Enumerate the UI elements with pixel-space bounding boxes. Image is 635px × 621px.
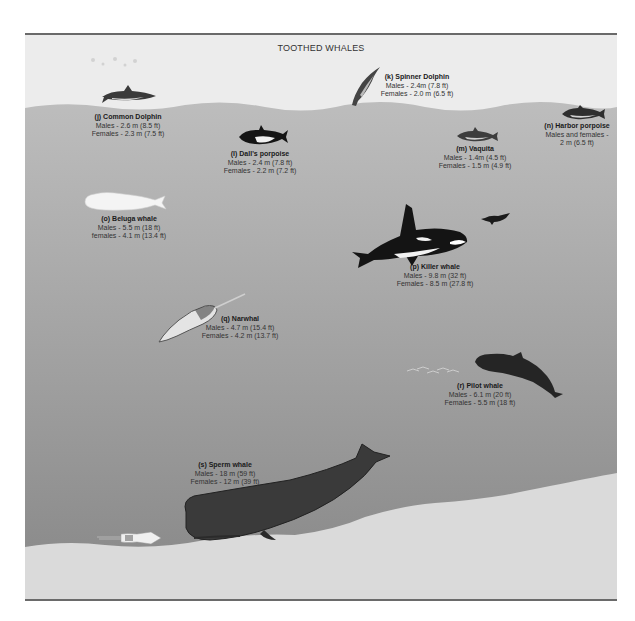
orca-icon: [350, 200, 472, 270]
label-sperm-whale: (s) Sperm whale Males - 18 m (59 ft) Fem…: [175, 461, 275, 487]
label-killer-whale: (p) Killer whale Males - 9.8 m (32 ft) F…: [380, 263, 490, 289]
label-dalls-porpoise: (l) Dall's porpoise Males - 2.4 m (7.8 f…: [215, 150, 305, 176]
squid-icon: [97, 529, 163, 547]
species-female-size: 2 m (6.5 ft): [537, 139, 617, 148]
porpoise-icon: [560, 105, 606, 121]
species-male-size: Males - 18 m (59 ft): [175, 470, 275, 479]
fish-school-icon: [405, 365, 465, 377]
species-female-size: Females - 4.2 m (13.7 ft): [190, 332, 290, 341]
species-name: (o) Beluga whale: [79, 215, 179, 224]
species-female-size: Females - 2.0 m (6.5 ft): [372, 90, 462, 99]
species-name: (j) Common Dolphin: [83, 113, 173, 122]
label-common-dolphin: (j) Common Dolphin Males - 2.6 m (8.5 ft…: [83, 113, 173, 139]
label-narwhal: (q) Narwhal Males - 4.7 m (15.4 ft) Fema…: [190, 315, 290, 341]
diagram-title: TOOTHED WHALES: [25, 43, 617, 53]
species-female-size: Females - 2.3 m (7.5 ft): [83, 130, 173, 139]
species-female-size: Females - 12 m (39 ft): [175, 478, 275, 487]
species-male-size: Males - 1.4m (4.5 ft): [430, 154, 520, 163]
dolphin-icon: [100, 85, 160, 105]
sperm-whale-icon: [180, 442, 392, 552]
species-female-size: Females - 5.5 m (18 ft): [430, 399, 530, 408]
species-name: (r) Pilot whale: [430, 382, 530, 391]
label-beluga-whale: (o) Beluga whale Males - 5.5 m (18 ft) f…: [79, 215, 179, 241]
porpoise-icon: [237, 125, 289, 147]
label-spinner-dolphin: (k) Spinner Dolphin Males - 2.4m (7.8 ft…: [372, 73, 462, 99]
species-name: (l) Dall's porpoise: [215, 150, 305, 159]
species-female-size: Females - 8.5 m (27.8 ft): [380, 280, 490, 289]
species-male-size: Males - 2.6 m (8.5 ft): [83, 122, 173, 131]
species-name: (p) Killer whale: [380, 263, 490, 272]
species-male-size: Males - 4.7 m (15.4 ft): [190, 324, 290, 333]
species-male-size: Males and females -: [537, 131, 617, 140]
label-vaquita: (m) Vaquita Males - 1.4m (4.5 ft) Female…: [430, 145, 520, 171]
species-female-size: females - 4.1 m (13.4 ft): [79, 232, 179, 241]
species-name: (n) Harbor porpoise: [537, 122, 617, 131]
species-male-size: Males - 2.4m (7.8 ft): [372, 82, 462, 91]
beluga-whale-icon: [83, 190, 167, 214]
species-male-size: Males - 2.4 m (7.8 ft): [215, 159, 305, 168]
species-name: (k) Spinner Dolphin: [372, 73, 462, 82]
species-name: (m) Vaquita: [430, 145, 520, 154]
species-male-size: Males - 5.5 m (18 ft): [79, 224, 179, 233]
species-name: (q) Narwhal: [190, 315, 290, 324]
species-female-size: Females - 2.2 m (7.2 ft): [215, 167, 305, 176]
label-pilot-whale: (r) Pilot whale Males - 6.1 m (20 ft) Fe…: [430, 382, 530, 408]
species-male-size: Males - 6.1 m (20 ft): [430, 391, 530, 400]
species-name: (s) Sperm whale: [175, 461, 275, 470]
diagram-frame: TOOTHED WHALES (j) Common Dolphin Males …: [25, 33, 617, 601]
seal-icon: [480, 212, 512, 226]
species-male-size: Males - 9.8 m (32 ft): [380, 272, 490, 281]
porpoise-icon: [455, 127, 499, 143]
label-harbor-porpoise: (n) Harbor porpoise Males and females - …: [537, 122, 617, 148]
species-female-size: Females - 1.5 m (4.9 ft): [430, 162, 520, 171]
